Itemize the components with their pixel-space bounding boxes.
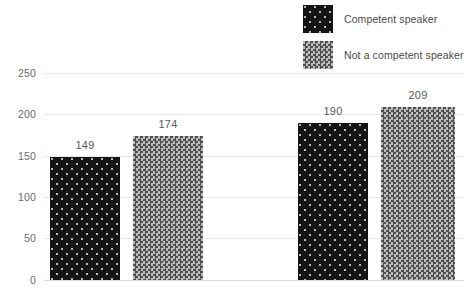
legend-swatch-gray-checkered-icon bbox=[303, 41, 333, 69]
bar-value-group2-not-competent: 209 bbox=[381, 89, 455, 101]
gridline-0 bbox=[44, 280, 464, 281]
legend-item-not-a-competent-speaker[interactable]: Not a competent speaker bbox=[303, 40, 464, 70]
legend-item-competent-speaker[interactable]: Competent speaker bbox=[303, 4, 464, 34]
bar-value-group2-competent: 190 bbox=[298, 105, 368, 117]
legend-label-not-a-competent-speaker: Not a competent speaker bbox=[344, 49, 464, 61]
y-axis-tick-0: 0 bbox=[0, 274, 36, 286]
bar-value-group1-competent: 149 bbox=[50, 139, 120, 151]
bar-group2-competent[interactable] bbox=[298, 123, 368, 280]
bar-group2-not-competent[interactable] bbox=[381, 107, 455, 280]
y-axis-tick-100: 100 bbox=[0, 191, 36, 203]
bar-chart: 250 200 150 100 50 0 149 174 190 209 Com… bbox=[0, 0, 464, 292]
bar-group1-competent[interactable] bbox=[50, 157, 120, 280]
y-axis-tick-50: 50 bbox=[0, 232, 36, 244]
legend-label-competent-speaker: Competent speaker bbox=[344, 13, 437, 25]
legend-swatch-dark-dotted-icon bbox=[303, 5, 333, 33]
bar-value-group1-not-competent: 174 bbox=[133, 118, 203, 130]
y-axis-tick-150: 150 bbox=[0, 150, 36, 162]
y-axis-tick-250: 250 bbox=[0, 67, 36, 79]
bar-group1-not-competent[interactable] bbox=[133, 136, 203, 280]
legend: Competent speaker Not a competent speake… bbox=[303, 4, 464, 76]
y-axis-tick-200: 200 bbox=[0, 108, 36, 120]
